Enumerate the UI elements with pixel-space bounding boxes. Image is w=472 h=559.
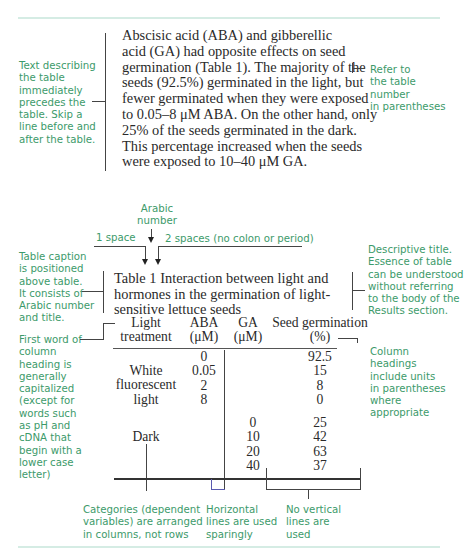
annotation-arabic-number: Arabic number [137, 203, 177, 228]
categories-pointer [146, 444, 147, 491]
annotation-line: heading is [19, 359, 82, 371]
annotation-line: number [370, 89, 446, 101]
annotation-horizontal-lines: Horizontal lines are used sparingly [206, 504, 277, 541]
annotation-line: column [19, 346, 82, 358]
header-line: ABA [183, 316, 225, 330]
annotation-line: Arabic number [19, 300, 94, 312]
light-label-line: light [114, 393, 178, 407]
annotation-line: words such [19, 408, 82, 420]
annotation-line: can be understood [368, 269, 464, 281]
caption-tick [82, 291, 103, 292]
header-aba: ABA (μM) [183, 316, 225, 345]
annotation-line: used [286, 529, 341, 541]
annotation-descriptive-title: Descriptive title. Essence of table can … [368, 244, 464, 318]
annotation-line: and title. [19, 312, 94, 324]
annotation-line: line before and [19, 121, 96, 133]
paragraph-line: fewer germinated when they were exposed [122, 91, 377, 107]
header-light-treatment: Light treatment [114, 316, 178, 345]
annotation-one-space: 1 space [96, 232, 136, 244]
no-vertical-bracket-bottom [266, 489, 361, 490]
annotation-line: lower case [19, 457, 82, 469]
two-spaces-pointer [158, 246, 159, 260]
annotation-line: number [137, 215, 177, 227]
annotation-line: Refer to [370, 64, 446, 76]
annotation-first-word: First word of column heading is generall… [19, 334, 82, 482]
table-header-rule [113, 348, 337, 349]
paragraph-line: to 0.05–8 μM ABA. On the other hand, onl… [122, 107, 377, 123]
table-cell: 63 [265, 445, 375, 459]
annotation-line: in columns, not rows [83, 529, 203, 541]
annotation-line: the table [19, 72, 96, 84]
no-vertical-bracket-right [360, 468, 361, 490]
annotation-line: without referring [368, 281, 464, 293]
table-cell: 92.5 [265, 350, 375, 364]
descriptive-tick [353, 290, 365, 291]
table-cell: 0 [265, 393, 375, 407]
annotation-line: begin with a [19, 445, 82, 457]
annotation-line: table. Skip a [19, 109, 96, 121]
annotation-line: precedes the [19, 97, 96, 109]
annotation-line: include units [370, 371, 446, 383]
refer-tick [353, 68, 365, 69]
annotation-line: in parentheses [370, 383, 446, 395]
header-line: (μM) [183, 330, 225, 344]
annotation-line: in parentheses [370, 101, 446, 113]
annotation-line: Column [370, 346, 446, 358]
paragraph-line: 25% of the seeds germinated in the dark. [122, 123, 377, 139]
horizontal-bracket-v [211, 479, 212, 489]
annotation-line: above table. [19, 276, 94, 288]
table-cell: 25 [265, 416, 375, 430]
descriptive-bracket [352, 272, 353, 310]
header-line: Seed germination [265, 316, 375, 330]
annotation-line: headings [370, 358, 446, 370]
no-vertical-bracket-left [266, 468, 267, 490]
annotation-text-precedes: Text describing the table immediately pr… [19, 60, 96, 146]
caption-line: hormones in the germination of light- [114, 287, 330, 303]
paragraph-line: Abscisic acid (ABA) and gibberellic [122, 28, 377, 44]
table-cell: 0.05 [183, 364, 225, 378]
annotation-categories: Categories (dependent variables) are arr… [83, 504, 203, 541]
table-cell: 2 [183, 379, 225, 393]
one-space-underline [94, 246, 146, 247]
annotation-line: letter) [19, 469, 82, 481]
annotation-line: variables) are arranged [83, 516, 203, 528]
caption-line: Table 1 Interaction between light and [114, 271, 330, 287]
annotation-line: Arabic [137, 203, 177, 215]
annotation-caption-position: Table caption is positioned above table.… [19, 251, 94, 325]
paragraph-line: germination (Table 1). The majority of t… [122, 60, 377, 76]
annotation-line: Horizontal [206, 504, 277, 516]
table-cell: 15 [265, 364, 375, 378]
top-divider [18, 17, 440, 19]
annotation-line: Essence of table [368, 256, 464, 268]
header-line: GA [227, 316, 269, 330]
annotation-line: capitalized [19, 383, 82, 395]
annotation-line: lines are [286, 516, 341, 528]
header-line: treatment [114, 330, 178, 344]
annotation-line: No vertical [286, 504, 341, 516]
first-word-connector-v [103, 323, 104, 340]
col-headings-connector-h [338, 338, 357, 339]
light-label-line: White [114, 364, 178, 378]
annotation-line: sparingly [206, 529, 277, 541]
first-word-connector-h1 [80, 339, 103, 340]
annotation-line: to the body of the [368, 293, 464, 305]
header-seed-germination: Seed germination (%) [265, 316, 375, 345]
arabic-number-arrow [148, 237, 154, 243]
header-ga: GA (μM) [227, 316, 269, 345]
paragraph-line: This percentage increased when the seeds [122, 139, 377, 155]
annotation-refer-table: Refer to the table number in parentheses [370, 64, 446, 113]
no-vertical-pointer [308, 489, 309, 499]
annotation-column-headings: Column headings include units in parenth… [370, 346, 446, 420]
table-caption: Table 1 Interaction between light and ho… [114, 271, 330, 318]
annotation-line: First word of [19, 334, 82, 346]
light-label-line: fluorescent [114, 378, 178, 392]
annotation-line: Results section. [368, 305, 464, 317]
germ-dark-values: 25 42 63 37 [265, 416, 375, 473]
header-line: (%) [265, 330, 375, 344]
germ-light-values: 92.5 15 8 0 [265, 350, 375, 407]
table-cell: 8 [265, 379, 375, 393]
table-cell: 0 [183, 350, 225, 364]
table-cell: 42 [265, 430, 375, 444]
header-line: (μM) [227, 330, 269, 344]
table-cell: 37 [265, 459, 375, 473]
